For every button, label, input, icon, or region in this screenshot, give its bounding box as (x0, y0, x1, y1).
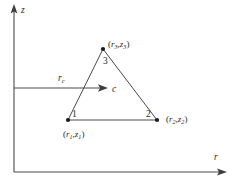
r-axis-label: r (214, 153, 218, 163)
triangle-node-dot-3 (101, 47, 105, 51)
node-number-2: 2 (146, 110, 151, 120)
coord-close-paren-1: ) (81, 129, 84, 139)
node-coordinate-label-1: (r1,z1) (63, 130, 84, 140)
triangle-node-dot-2 (155, 118, 159, 122)
figure-vector-layer (0, 0, 237, 184)
node-number-3: 3 (103, 57, 108, 67)
centroid-radius-subscript: c (62, 77, 65, 84)
node-coordinate-label-2: (r2,z2) (166, 115, 187, 125)
coord-close-paren-2: ) (184, 114, 187, 124)
centroid-radius-label: rc (58, 74, 65, 84)
centroid-point-label: c (112, 85, 116, 95)
triangle-node-dot-1 (66, 118, 70, 122)
z-axis-label: z (21, 6, 25, 16)
coord-close-paren-3: ) (126, 39, 129, 49)
node-coordinate-label-3: (r3,z3) (108, 40, 129, 50)
figure-canvas: z r rc c 1 2 3 (r1,z1) (r2,z2) (r3,z3) (0, 0, 237, 184)
node-number-1: 1 (72, 110, 77, 120)
